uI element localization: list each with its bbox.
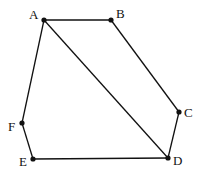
vertex-label-a: A [29, 7, 39, 22]
edge-fa [22, 20, 44, 123]
hexagon-diagram: ABCDEF [0, 0, 202, 175]
edge-de [33, 158, 168, 159]
vertices [19, 17, 181, 161]
vertex-label-e: E [19, 154, 27, 169]
edges [22, 20, 179, 159]
vertex-b [108, 17, 113, 22]
vertex-f [19, 120, 24, 125]
vertex-labels: ABCDEF [8, 6, 193, 169]
edge-cd [168, 112, 179, 158]
vertex-label-c: C [184, 105, 193, 120]
vertex-label-f: F [8, 119, 15, 134]
vertex-d [165, 155, 170, 160]
vertex-label-b: B [116, 6, 125, 21]
vertex-label-d: D [173, 153, 182, 168]
vertex-c [176, 109, 181, 114]
vertex-a [41, 17, 46, 22]
edge-bc [111, 20, 179, 112]
edge-ad [44, 20, 168, 158]
vertex-e [30, 156, 35, 161]
